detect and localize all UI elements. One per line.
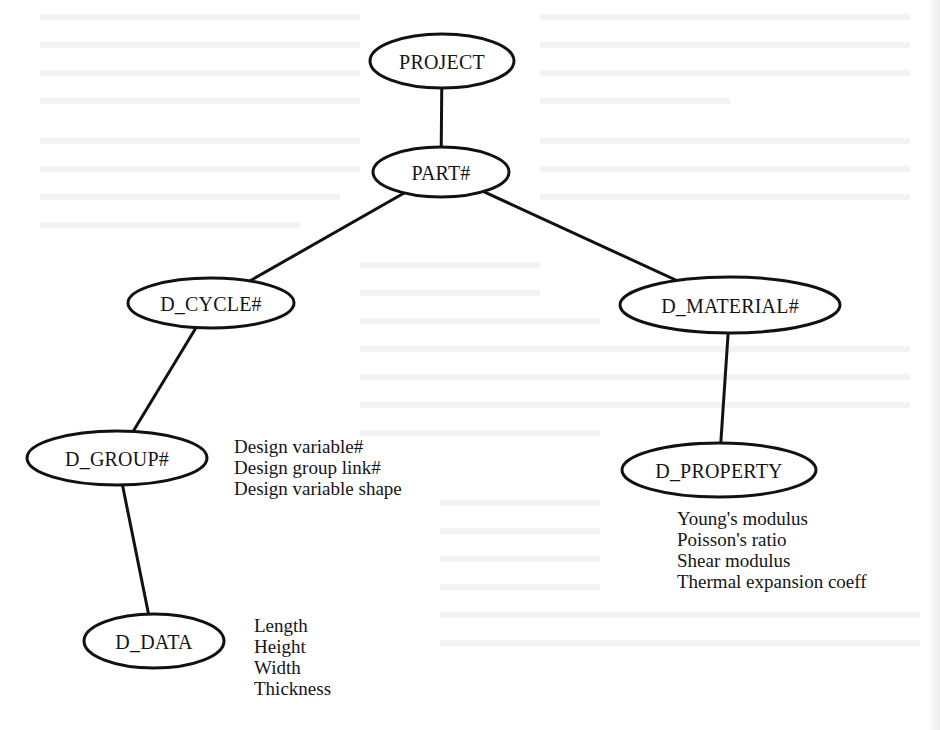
- d-group-attributes: Design variable# Design group link# Desi…: [234, 436, 402, 499]
- node-label-d-property: D_PROPERTY: [655, 461, 783, 481]
- d-data-attributes: Length Height Width Thickness: [254, 615, 331, 699]
- attribute-item: Width: [254, 657, 331, 678]
- node-label-d-group: D_GROUP#: [65, 449, 169, 469]
- attribute-item: Shear modulus: [677, 550, 867, 571]
- attribute-item: Thermal expansion coeff: [677, 571, 867, 592]
- node-label-d-material: D_MATERIAL#: [661, 296, 799, 316]
- page-edge-shadow: [928, 0, 940, 730]
- attribute-item: Height: [254, 636, 331, 657]
- attribute-item: Design variable#: [234, 436, 402, 457]
- attribute-item: Length: [254, 615, 331, 636]
- attribute-item: Young's modulus: [677, 508, 867, 529]
- d-property-attributes: Young's modulus Poisson's ratio Shear mo…: [677, 508, 867, 592]
- attribute-item: Thickness: [254, 678, 331, 699]
- hierarchy-diagram: [0, 0, 940, 730]
- attribute-item: Design variable shape: [234, 478, 402, 499]
- node-label-d-data: D_DATA: [115, 632, 192, 652]
- node-label-d-cycle: D_CYCLE#: [160, 294, 262, 314]
- node-label-project: PROJECT: [399, 52, 485, 72]
- node-label-part: PART#: [411, 163, 470, 183]
- attribute-item: Poisson's ratio: [677, 529, 867, 550]
- attribute-item: Design group link#: [234, 457, 402, 478]
